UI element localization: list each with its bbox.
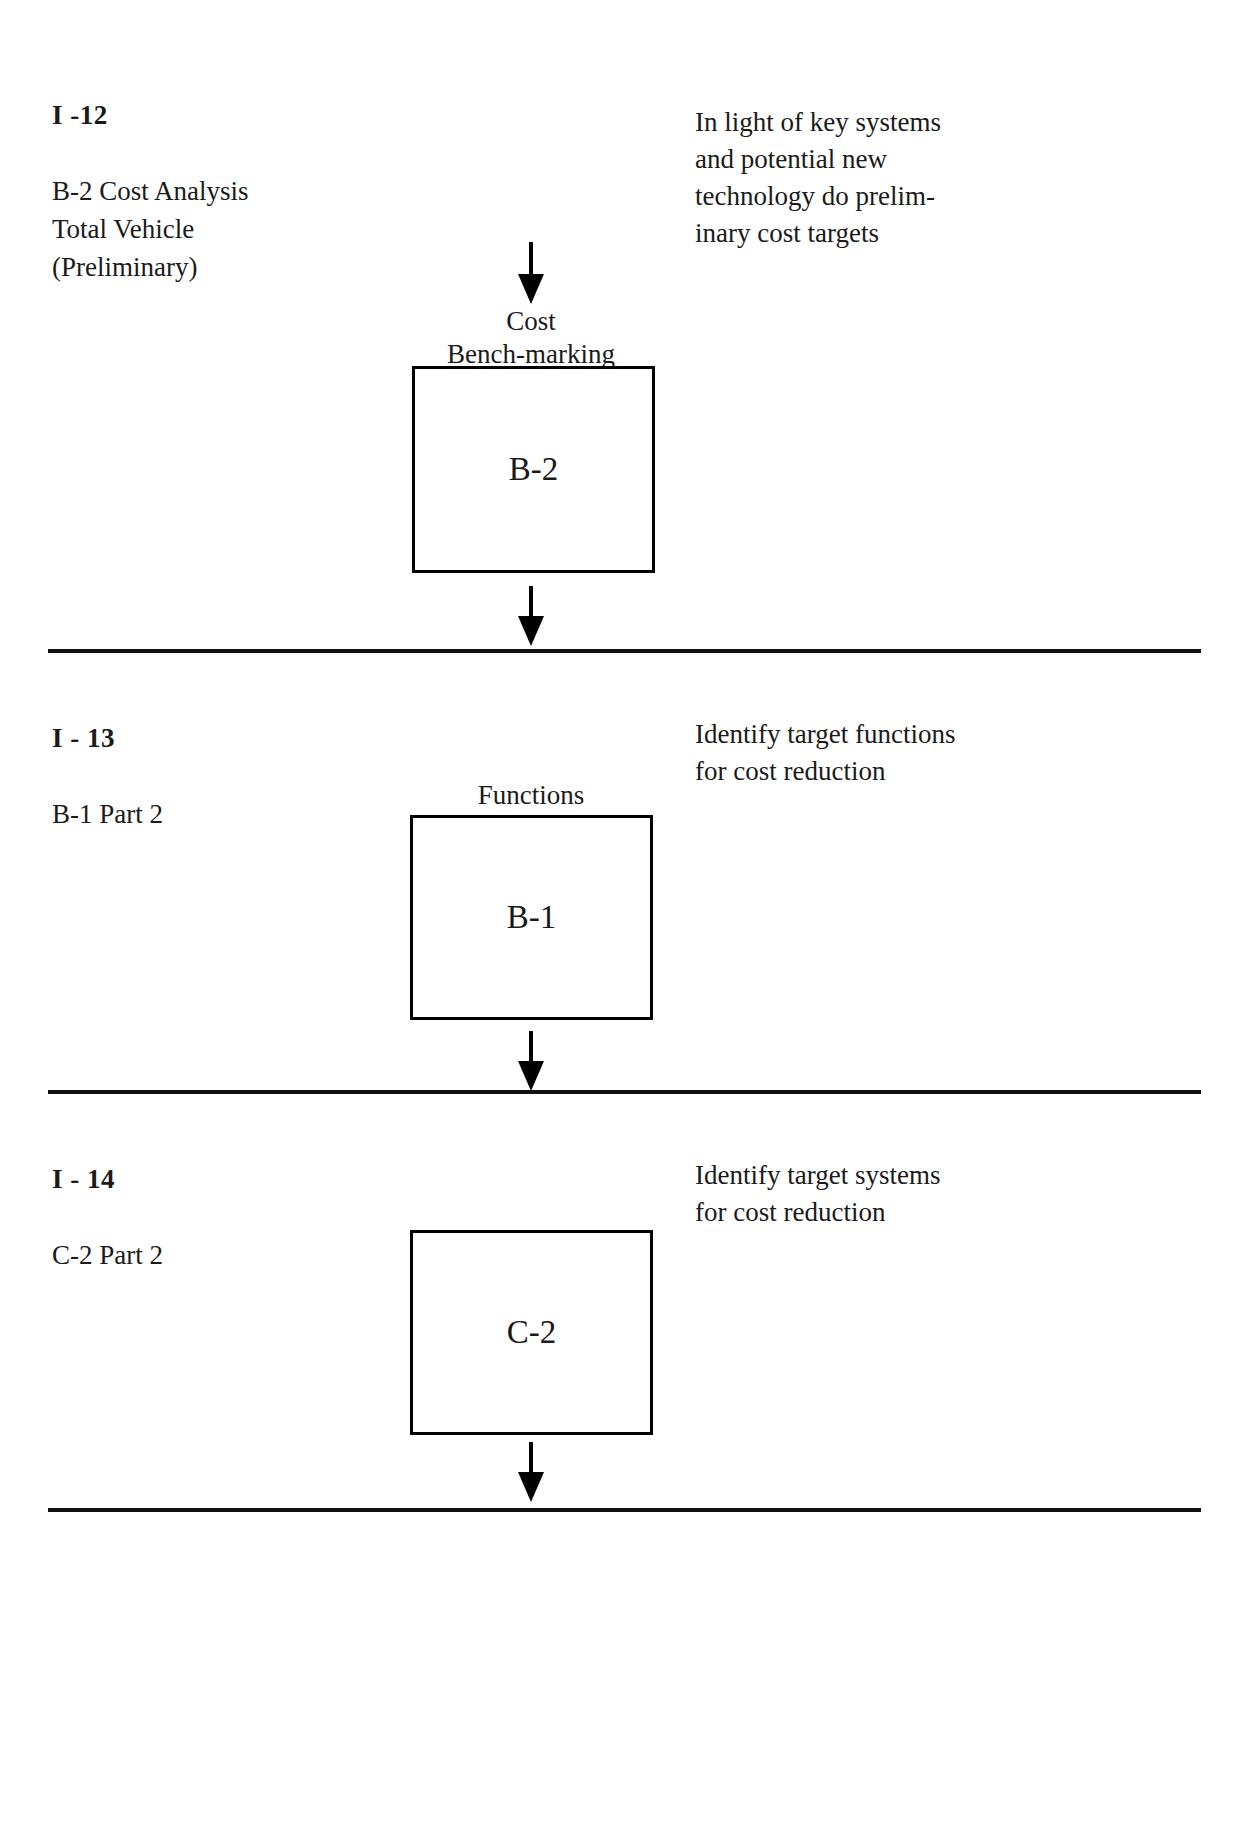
process-box-label: B-2 [509, 453, 559, 486]
section-i-14: I - 14 C-2 Part 2 Identify target system… [0, 1090, 1245, 1530]
process-box-label: C-2 [507, 1316, 557, 1349]
arrow-out-of-box-b-1 [518, 1031, 544, 1093]
arrow-into-box-b-2 [518, 242, 544, 302]
section-subtitle: C-2 Part 2 [52, 1236, 163, 1274]
process-box-b-1: B-1 [410, 815, 653, 1020]
section-i-12: I -12 B-2 Cost Analysis Total Vehicle (P… [0, 0, 1245, 660]
section-header-i-12: I -12 B-2 Cost Analysis Total Vehicle (P… [52, 58, 249, 324]
arrow-out-of-box-c-2 [518, 1442, 544, 1504]
section-code: I - 14 [52, 1160, 163, 1198]
section-description-i-12: In light of key systems and potential ne… [695, 104, 1025, 252]
section-header-i-13: I - 13 B-1 Part 2 [52, 681, 163, 871]
diagram-page: I -12 B-2 Cost Analysis Total Vehicle (P… [0, 0, 1245, 1822]
process-box-c-2: C-2 [410, 1230, 653, 1435]
section-description-i-13: Identify target functions for cost reduc… [695, 716, 1025, 790]
section-code: I -12 [52, 96, 249, 134]
box-caption-functions: Functions [406, 779, 656, 812]
section-header-i-14: I - 14 C-2 Part 2 [52, 1122, 163, 1312]
section-subtitle: B-1 Part 2 [52, 795, 163, 833]
section-divider-3 [48, 1508, 1201, 1512]
section-i-13: I - 13 B-1 Part 2 Identify target functi… [0, 649, 1245, 1094]
process-box-label: B-1 [507, 901, 557, 934]
process-box-b-2: B-2 [412, 366, 655, 573]
section-description-i-14: Identify target systems for cost reducti… [695, 1157, 1025, 1231]
section-subtitle: B-2 Cost Analysis Total Vehicle (Prelimi… [52, 172, 249, 286]
arrow-out-of-box-b-2 [518, 586, 544, 648]
box-caption-cost-bench-marking: Cost Bench-marking [406, 305, 656, 371]
section-code: I - 13 [52, 719, 163, 757]
